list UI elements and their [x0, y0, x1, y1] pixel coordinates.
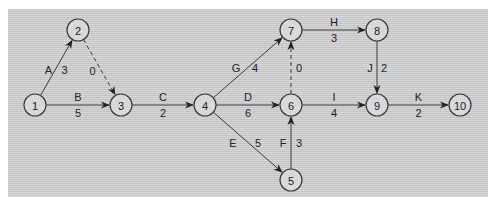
activity-duration-label: 3: [331, 32, 337, 44]
event-node-9: 9: [366, 94, 388, 116]
arrow-line: [213, 38, 282, 98]
event-node-2: 2: [67, 19, 89, 41]
activity-name-label: E: [229, 137, 236, 149]
event-node-10: 10: [449, 94, 471, 116]
event-node-7: 7: [280, 19, 302, 41]
node-label: 1: [32, 100, 38, 112]
activity-duration-label: 3: [296, 137, 302, 149]
activity-arrow-e: [213, 112, 282, 172]
activity-name-label: I: [332, 91, 335, 103]
event-node-4: 4: [194, 94, 216, 116]
activity-duration-label: 2: [160, 107, 166, 119]
activity-duration-label: 0: [89, 65, 95, 77]
activity-duration-label: 5: [255, 137, 261, 149]
activity-name-label: G: [232, 62, 241, 74]
activity-name-label: J: [367, 62, 373, 74]
event-node-5: 5: [280, 169, 302, 191]
event-node-1: 1: [24, 94, 46, 116]
arrow-line: [83, 40, 115, 95]
node-label: 6: [288, 100, 294, 112]
event-node-3: 3: [110, 94, 132, 116]
activity-duration-label: 5: [75, 107, 81, 119]
node-label: 4: [202, 100, 208, 112]
activity-duration-label: 3: [61, 64, 67, 76]
activity-duration-label: 6: [245, 107, 251, 119]
activity-name-label: K: [415, 91, 423, 103]
event-node-8: 8: [366, 19, 388, 41]
arrow-line: [213, 112, 282, 172]
node-label: 7: [288, 25, 294, 37]
activity-name-label: F: [280, 137, 287, 149]
node-label: 8: [374, 25, 380, 37]
activity-duration-label: 2: [415, 107, 421, 119]
activity-duration-label: 0: [296, 62, 302, 74]
node-label: 3: [118, 100, 124, 112]
activity-duration-label: 4: [252, 62, 258, 74]
node-label: 9: [374, 100, 380, 112]
activity-name-label: H: [330, 16, 338, 28]
activity-name-label: A: [45, 64, 53, 76]
activity-name-label: B: [74, 91, 81, 103]
activity-arrow-g: [213, 38, 282, 98]
network-diagram: A3B50C2G4D6E5F30H3I4J2K2 12345678910: [0, 0, 495, 204]
node-label: 10: [454, 100, 466, 112]
activity-name-label: D: [244, 91, 252, 103]
node-label: 2: [75, 25, 81, 37]
activity-duration-label: 2: [381, 62, 387, 74]
node-label: 5: [288, 175, 294, 187]
activity-duration-label: 4: [331, 107, 337, 119]
activity-name-label: C: [159, 91, 167, 103]
event-node-6: 6: [280, 94, 302, 116]
dummy-activity-arrow: [83, 40, 115, 95]
